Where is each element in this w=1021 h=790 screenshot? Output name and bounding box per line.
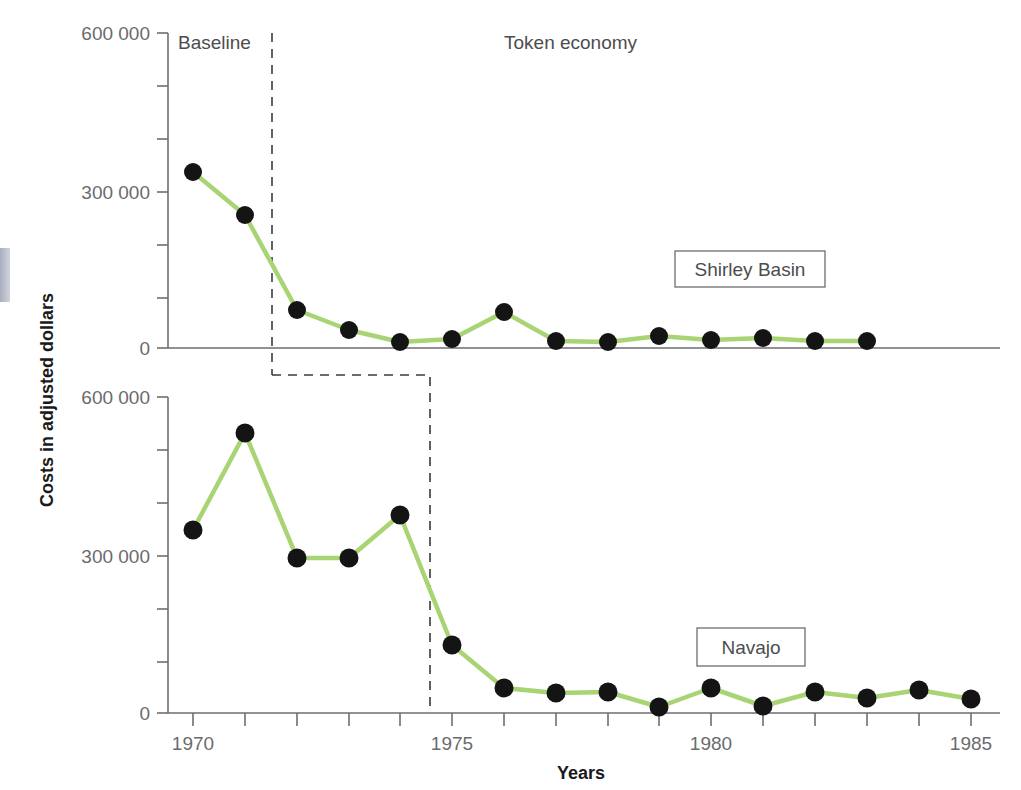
- x-tick-label-1985: 1985: [950, 733, 992, 754]
- data-point: [547, 332, 565, 350]
- x-tick-label-1970: 1970: [172, 733, 214, 754]
- page-edge-artifact: [0, 248, 10, 302]
- bottom-y-ticks: [157, 397, 168, 713]
- data-point: [599, 333, 617, 351]
- data-point: [650, 327, 668, 345]
- data-point: [599, 683, 618, 702]
- data-point: [391, 506, 410, 525]
- bottom-x-ticks: [193, 713, 971, 726]
- data-point: [702, 679, 721, 698]
- data-point: [806, 683, 825, 702]
- data-point: [236, 424, 255, 443]
- legend-shirley-basin: Shirley Basin: [675, 251, 825, 287]
- top-y-ticks: [157, 33, 168, 348]
- data-point: [443, 330, 461, 348]
- data-point: [858, 332, 876, 350]
- data-point: [495, 679, 514, 698]
- top-phase-label-token-economy: Token economy: [504, 32, 638, 53]
- panel-navajo: 600 000 300 000 0: [81, 387, 1000, 754]
- data-point: [288, 301, 306, 319]
- data-point: [650, 698, 669, 717]
- bottom-y-tick-label-0: 0: [139, 703, 150, 724]
- legend-label-navajo: Navajo: [721, 637, 780, 658]
- data-point: [184, 521, 203, 540]
- y-axis-title-text: Costs in adjusted dollars: [37, 293, 57, 507]
- y-axis-title: Costs in adjusted dollars: [37, 293, 57, 507]
- data-point: [962, 690, 981, 709]
- figure-canvas: Costs in adjusted dollars 600 000 300 00…: [0, 0, 1021, 790]
- data-point: [184, 163, 202, 181]
- phase-divider-connector: [272, 375, 430, 713]
- data-point: [236, 206, 254, 224]
- top-y-tick-label-0: 0: [139, 338, 150, 359]
- data-point: [754, 697, 773, 716]
- bottom-data-points: [184, 424, 981, 717]
- chart-svg: Costs in adjusted dollars 600 000 300 00…: [0, 0, 1021, 790]
- data-point: [443, 636, 462, 655]
- data-point: [340, 549, 359, 568]
- top-y-tick-label-300000: 300 000: [81, 182, 150, 203]
- data-point: [910, 681, 929, 700]
- data-point: [702, 331, 720, 349]
- data-point: [288, 549, 307, 568]
- legend-label-shirley-basin: Shirley Basin: [695, 259, 806, 280]
- x-tick-label-1980: 1980: [690, 733, 732, 754]
- data-point: [495, 303, 513, 321]
- bottom-y-tick-label-600000: 600 000: [81, 387, 150, 408]
- top-phase-label-baseline: Baseline: [178, 32, 251, 53]
- x-axis-title-text: Years: [557, 763, 605, 783]
- legend-navajo: Navajo: [697, 628, 805, 666]
- panel-shirley-basin: 600 000 300 000 0 Baseline Token economy: [81, 23, 1000, 375]
- data-point: [754, 329, 772, 347]
- data-point: [340, 321, 358, 339]
- bottom-y-tick-label-300000: 300 000: [81, 546, 150, 567]
- bottom-data-line: [193, 433, 971, 707]
- data-point: [806, 332, 824, 350]
- data-point: [858, 689, 877, 708]
- data-point: [391, 333, 409, 351]
- top-y-tick-label-600000: 600 000: [81, 23, 150, 44]
- x-tick-label-1975: 1975: [431, 733, 473, 754]
- data-point: [547, 684, 566, 703]
